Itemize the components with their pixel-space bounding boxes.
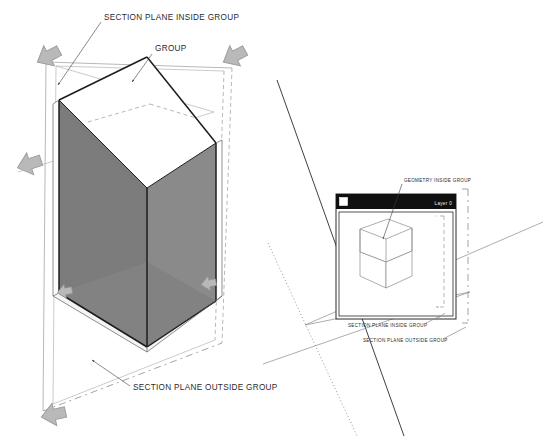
label-section-plane-inside-group-right: SECTION PLANE INSIDE GROUP <box>348 323 427 328</box>
left-figure: SECTION PLANE INSIDE GROUP GROUP SECTION… <box>14 13 278 428</box>
label-section-plane-outside-group: SECTION PLANE OUTSIDE GROUP <box>133 383 278 392</box>
label-group: GROUP <box>155 44 187 53</box>
diagram-canvas: SECTION PLANE INSIDE GROUP GROUP SECTION… <box>0 0 543 436</box>
window-layer-title: Layer 0 <box>435 201 453 206</box>
annotation-section-plane-outside-group-left: SECTION PLANE OUTSIDE GROUP <box>92 360 278 392</box>
right-figure: Layer 0 GEOMETRY I <box>263 80 543 436</box>
label-geometry-inside-group: GEOMETRY INSIDE GROUP <box>404 178 471 183</box>
label-section-plane-inside-group: SECTION PLANE INSIDE GROUP <box>104 13 239 22</box>
label-section-plane-outside-group-right: SECTION PLANE OUTSIDE GROUP <box>363 338 448 343</box>
section-plane-corner-marker-icon <box>14 149 45 178</box>
diagram-svg: SECTION PLANE INSIDE GROUP GROUP SECTION… <box>0 0 543 436</box>
cut-prism-solid <box>53 57 222 352</box>
mini-box-geometry <box>360 219 412 288</box>
annotation-section-plane-outside-group-right: SECTION PLANE OUTSIDE GROUP <box>363 327 466 343</box>
layer-visibility-checkbox[interactable] <box>340 198 348 206</box>
